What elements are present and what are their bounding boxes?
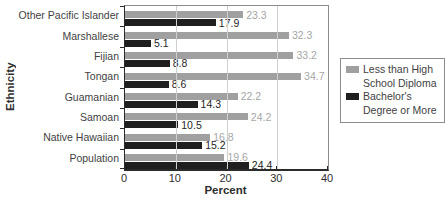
legend-item-label: Bachelor's Degree or More [363, 90, 440, 117]
category-label: Marshallese [18, 25, 119, 45]
bar-less-than-hs [125, 52, 293, 59]
y-axis-title: Ethnicity [2, 5, 18, 168]
gridline-10 [176, 6, 177, 169]
bar-bachelors [125, 142, 202, 149]
legend-item: Less than High School Diploma [346, 63, 440, 90]
bar-bachelors [125, 101, 198, 108]
bar-less-than-hs [125, 32, 289, 39]
bar-chart-figure: Ethnicity Other Pacific IslanderMarshall… [0, 0, 446, 200]
category-label: Population [18, 148, 119, 168]
category-axis-labels: Other Pacific IslanderMarshalleseFijianT… [18, 5, 119, 168]
x-axis-title: Percent [124, 184, 327, 196]
y-axis-tick [120, 149, 124, 150]
bar-bachelors [125, 19, 216, 26]
x-axis-tick-label: 40 [321, 172, 333, 184]
y-axis-tick [120, 47, 124, 48]
bar-bachelors [125, 162, 249, 169]
legend-swatch-icon [346, 93, 359, 100]
category-label: Samoan [18, 107, 119, 127]
bar-bachelors [125, 60, 170, 67]
bar-less-than-hs [125, 73, 301, 80]
plot-area: 23.317.932.35.133.28.834.78.622.214.324.… [124, 5, 329, 171]
x-axis-tick-label: 30 [270, 172, 282, 184]
x-axis-tick [226, 166, 227, 170]
y-axis-tick [120, 128, 124, 129]
bar-bachelors [125, 40, 151, 47]
gridline-30 [277, 6, 278, 169]
category-label: Guamanian [18, 87, 119, 107]
x-axis-tick-label: 10 [169, 172, 181, 184]
x-axis-tick-label: 0 [121, 172, 127, 184]
x-axis-tick [124, 166, 125, 170]
y-axis-tick [120, 6, 124, 7]
legend-item: Bachelor's Degree or More [346, 90, 440, 117]
category-label: Native Hawaiian [18, 127, 119, 147]
x-axis-tick [175, 166, 176, 170]
bar-bachelors [125, 81, 169, 88]
x-axis-tick-label: 20 [219, 172, 231, 184]
x-axis-tick [327, 166, 328, 170]
y-axis-tick [120, 88, 124, 89]
value-label: 24.4 [252, 160, 272, 171]
legend: Less than High School DiplomaBachelor's … [340, 58, 445, 123]
legend-item-label: Less than High School Diploma [363, 63, 440, 90]
y-axis-tick [120, 67, 124, 68]
y-axis-tick [120, 108, 124, 109]
bar-bachelors [125, 121, 178, 128]
category-label: Tongan [18, 66, 119, 86]
y-axis-tick [120, 26, 124, 27]
legend-swatch-icon [346, 66, 359, 73]
category-label: Other Pacific Islander [18, 5, 119, 25]
bar-less-than-hs [125, 154, 224, 161]
x-axis-tick [276, 166, 277, 170]
category-label: Fijian [18, 46, 119, 66]
gridline-20 [227, 6, 228, 169]
bar-less-than-hs [125, 134, 210, 141]
